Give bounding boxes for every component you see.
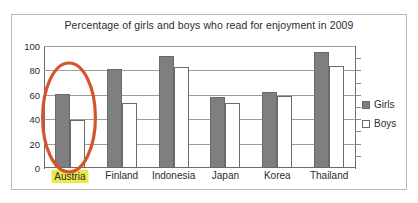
bar-boys-thailand [329,66,344,168]
right-minor-tick-20 [355,144,361,145]
y-tick-label-40: 40 [12,114,40,125]
legend-item-boys: Boys [362,118,408,129]
right-minor-tick-90 [355,58,361,59]
category-label-indonesia: Indonesia [152,170,195,181]
right-minor-tick-60 [355,95,361,96]
category-label-thailand: Thailand [310,170,348,181]
chart-figure: Percentage of girls and boys who read fo… [0,0,418,203]
legend-item-girls: Girls [362,99,408,110]
bar-boys-austria [70,120,85,168]
plot-area [44,46,355,168]
right-minor-tick-40 [355,119,361,120]
legend-label: Girls [374,99,395,110]
bar-girls-japan [210,97,225,168]
bar-boys-japan [225,103,240,168]
y-tick-label-60: 60 [12,89,40,100]
filled-gray-square-icon [362,101,370,109]
bar-group [96,46,148,168]
right-minor-tick-80 [355,70,361,71]
x-axis-category-labels: AustriaFinlandIndonesiaJapanKoreaThailan… [44,170,355,186]
outlined-white-square-icon [362,120,370,128]
bar-girls-austria [55,94,70,168]
bar-group [251,46,303,168]
category-label-austria: Austria [51,170,88,183]
y-tick-label-20: 20 [12,138,40,149]
right-minor-tick-10 [355,156,361,157]
bar-boys-finland [122,103,137,168]
bar-group [200,46,252,168]
y-axis-tick-labels: 100806040200 [8,46,40,168]
category-label-korea: Korea [264,170,291,181]
chart-legend: GirlsBoys [362,99,408,137]
right-axis-minor-ticks [355,46,361,168]
y-tick-label-100: 100 [12,41,40,52]
bar-girls-korea [262,92,277,168]
y-tick-label-80: 80 [12,65,40,76]
bar-group [148,46,200,168]
bar-girls-thailand [314,52,329,168]
y-tick-label-0: 0 [12,163,40,174]
right-minor-tick-50 [355,107,361,108]
right-minor-tick-30 [355,131,361,132]
bar-boys-indonesia [174,67,189,168]
bar-girls-finland [107,69,122,168]
bar-group [303,46,355,168]
bar-boys-korea [277,96,292,168]
bar-group [44,46,96,168]
bar-girls-indonesia [159,56,174,168]
category-label-finland: Finland [105,170,138,181]
right-minor-tick-70 [355,83,361,84]
chart-title: Percentage of girls and boys who read fo… [11,19,407,31]
category-label-japan: Japan [212,170,239,181]
legend-label: Boys [374,118,396,129]
